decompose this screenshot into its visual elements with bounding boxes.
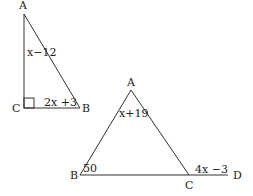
triangle-abc-1-edges (24, 14, 80, 108)
geometry-diagram: A C B x−12 2x +3 A B C D x+19 50 4x −3 (0, 0, 253, 196)
vertex-label-d: D (233, 169, 242, 182)
right-angle-marker (24, 98, 34, 108)
angle-a-label: x+19 (119, 107, 148, 120)
exterior-angle-c-label: 4x −3 (195, 163, 228, 176)
vertex-label-a: A (18, 0, 28, 12)
vertex-label-b: B (82, 102, 90, 115)
right-triangle: A C B x−12 2x +3 (12, 0, 90, 115)
vertex-label-c: C (185, 179, 193, 192)
vertex-label-a: A (126, 76, 136, 89)
vertex-label-b: B (70, 169, 78, 182)
side-ac (131, 90, 189, 175)
triangle-with-exterior-angle: A B C D x+19 50 4x −3 (70, 76, 242, 192)
angle-b-label: 50 (83, 162, 97, 175)
side-ac-label: x−12 (27, 46, 56, 59)
vertex-label-c: C (12, 102, 20, 115)
side-cb-label: 2x +3 (44, 96, 77, 109)
